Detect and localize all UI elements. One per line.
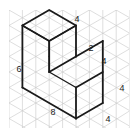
isometric-drawing: 6 4 2 4 4 4 8 [0, 0, 138, 133]
dim-label-bottom-front-width: 8 [50, 107, 55, 117]
dim-label-bottom-right-depth: 4 [105, 114, 110, 124]
isometric-figure-page: 6 4 2 4 4 4 8 [0, 0, 138, 133]
triangular-grid [9, 0, 130, 128]
dim-label-step-top-depth: 4 [101, 56, 106, 66]
dim-label-top-back-depth: 4 [74, 14, 79, 24]
dim-label-right-height: 4 [119, 83, 124, 93]
dim-label-left-height: 6 [16, 64, 21, 74]
dim-label-step-riser: 2 [88, 43, 93, 53]
